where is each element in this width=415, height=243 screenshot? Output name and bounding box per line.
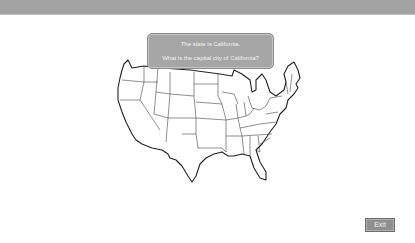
state-statement: The state is California. [148, 41, 273, 47]
capital-question: What is the capital city of California? [148, 55, 273, 61]
exit-button[interactable]: Exit [365, 218, 395, 232]
top-bar [0, 0, 415, 15]
us-states-map-icon [110, 52, 306, 188]
question-dialog: The state is California. What is the cap… [147, 33, 274, 69]
us-map[interactable] [110, 52, 306, 188]
